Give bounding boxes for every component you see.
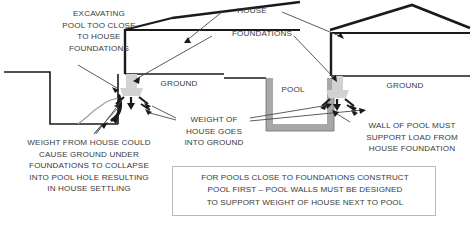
label-ground-left: GROUND [150,78,208,90]
leader-weight-right-a-icon [250,105,329,118]
leader-weight-left-a-icon [152,106,176,118]
label-house: HOUSE [222,5,282,17]
leader-foundations-right-icon [294,36,335,79]
excavation-pit-icon [4,72,118,124]
left-load-arrow-3-icon [139,97,148,104]
pool-floor-icon [266,124,334,131]
caption-text: FOR POOLS CLOSE TO FOUNDATIONS CONSTRUCT… [173,172,437,209]
label-pool: POOL [272,84,314,96]
annotation-weight-of-house: WEIGHT OF HOUSE GOES INTO GROUND [178,114,250,149]
leader-weight-right-b-arrowhead-icon [359,108,366,114]
left-load-arrowhead-2-icon [127,103,135,110]
label-foundations: FOUNDATIONS [214,28,310,40]
annotation-weight-from-house: WEIGHT FROM HOUSE COULD CAUSE GROUND UND… [4,137,174,195]
right-load-arrow-3-icon [345,99,354,106]
left-footing-pad-icon [120,88,143,96]
label-ground-right: GROUND [376,80,434,92]
right-house-roof-icon [330,5,470,30]
annotation-excavating: EXCAVATING POOL TOO CLOSE TO HOUSE FOUND… [24,8,174,54]
caption-box: FOR POOLS CLOSE TO FOUNDATIONS CONSTRUCT… [172,166,436,216]
pool-foundation-diagram: EXCAVATING POOL TOO CLOSE TO HOUSE FOUND… [0,0,472,228]
annotation-wall-of-pool: WALL OF POOL MUST SUPPORT LOAD FROM HOUS… [352,120,472,155]
right-footing-pad-icon [326,90,349,98]
leader-excavating-icon [78,65,117,88]
